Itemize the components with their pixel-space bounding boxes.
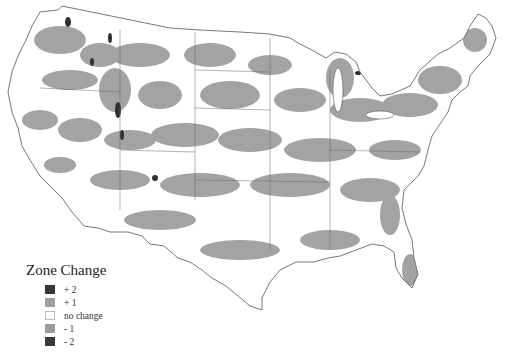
legend-label: - 1 bbox=[64, 324, 74, 334]
legend-item-plus2: + 2 bbox=[45, 283, 106, 296]
legend-label: + 1 bbox=[64, 298, 76, 308]
legend-item-minus1: - 1 bbox=[45, 322, 106, 335]
legend-title: Zone Change bbox=[26, 262, 106, 279]
legend-item-minus2: - 2 bbox=[45, 335, 106, 348]
legend-label: no change bbox=[64, 311, 103, 321]
legend-item-plus1: + 1 bbox=[45, 296, 106, 309]
legend-label: - 2 bbox=[64, 337, 74, 347]
legend-item-no-change: no change bbox=[45, 309, 106, 322]
swatch-plus1 bbox=[45, 298, 55, 307]
swatch-no-change bbox=[45, 311, 55, 320]
swatch-minus1 bbox=[45, 324, 55, 333]
legend: Zone Change + 2 + 1 no change - 1 - 2 bbox=[26, 262, 106, 348]
legend-label: + 2 bbox=[64, 285, 76, 295]
swatch-minus2 bbox=[45, 337, 55, 346]
swatch-plus2 bbox=[45, 285, 55, 294]
